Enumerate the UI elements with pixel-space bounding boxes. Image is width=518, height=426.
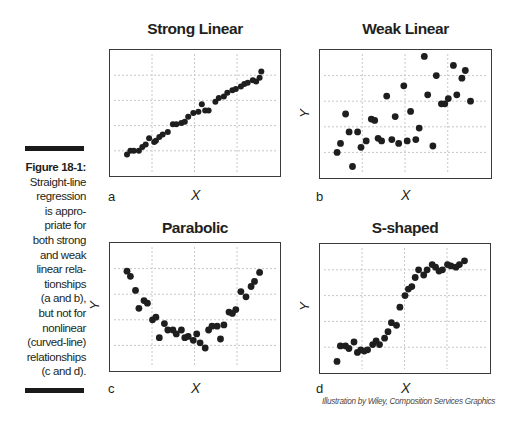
data-point: [395, 140, 402, 147]
caption-line: nonlinear: [10, 321, 86, 336]
data-point: [364, 346, 371, 353]
caption-top-rule: [25, 146, 84, 151]
data-point: [421, 53, 428, 60]
caption-line: tionships: [10, 277, 86, 292]
data-point: [233, 86, 239, 92]
data-point: [146, 135, 152, 141]
data-point: [346, 129, 353, 136]
data-point: [381, 335, 388, 342]
illustration-credit: Illustration by Wiley, Composition Servi…: [322, 397, 495, 406]
panel-d-title: S-shaped: [319, 219, 491, 237]
data-point: [232, 306, 239, 313]
panel-d-x-label: X: [401, 380, 410, 396]
data-point: [238, 288, 245, 295]
data-point: [354, 129, 361, 136]
data-point: [161, 320, 168, 327]
data-point: [334, 358, 341, 365]
data-point: [190, 110, 196, 116]
data-point: [461, 257, 468, 264]
data-point: [217, 336, 224, 343]
data-point: [404, 138, 411, 145]
panel-b-title: Weak Linear: [319, 20, 492, 38]
caption-line: and weak: [10, 248, 86, 263]
data-point: [224, 90, 230, 96]
data-point: [388, 136, 395, 143]
panel-d-plot: [319, 243, 491, 374]
data-point: [383, 93, 390, 100]
caption-line: but not for: [10, 306, 86, 321]
panel-c-x-label: X: [191, 380, 200, 396]
scatter-svg: [110, 243, 280, 371]
data-point: [153, 314, 160, 321]
data-point: [342, 111, 349, 118]
data-point: [156, 334, 163, 341]
data-point: [415, 266, 422, 273]
data-point: [256, 269, 263, 276]
caption-line: priate for: [10, 218, 86, 233]
data-point: [412, 136, 419, 143]
scatter-svg: [320, 50, 491, 178]
data-point: [195, 109, 201, 115]
data-point: [190, 337, 197, 344]
caption-line: relationships: [10, 350, 86, 365]
data-point: [371, 117, 378, 124]
panel-c-y-label: Y: [87, 301, 102, 310]
data-point: [165, 129, 171, 135]
data-point: [400, 82, 407, 89]
panel-c-title: Parabolic: [109, 219, 281, 237]
caption-line: both strong: [10, 233, 86, 248]
data-point: [412, 274, 419, 281]
caption-line: linear rela-: [10, 262, 86, 277]
data-point: [197, 339, 204, 346]
panel-a-plot: [109, 49, 281, 177]
data-point: [433, 72, 440, 79]
data-point: [402, 292, 409, 299]
data-point: [378, 138, 385, 145]
caption-bottom-rule: [25, 388, 84, 393]
panel-d-y-label: Y: [297, 302, 312, 311]
scatter-svg: [320, 244, 490, 373]
data-point: [245, 80, 251, 86]
data-point: [459, 75, 466, 82]
data-point: [214, 323, 221, 330]
data-point: [407, 108, 414, 115]
data-point: [424, 91, 431, 98]
data-point: [202, 345, 209, 352]
panel-b-x-label: X: [401, 187, 410, 203]
data-point: [243, 293, 250, 300]
caption-line: Straight-line: [10, 175, 86, 190]
data-point: [221, 322, 228, 329]
data-point: [144, 300, 151, 307]
data-point: [349, 163, 356, 170]
caption-line: is appro-: [10, 204, 86, 219]
data-point: [258, 68, 264, 74]
panel-c-letter: c: [108, 381, 115, 396]
panel-a-x-label: X: [191, 187, 200, 203]
data-point: [376, 341, 383, 348]
panel-b-letter: b: [316, 189, 323, 204]
data-point: [450, 62, 457, 69]
data-point: [257, 75, 263, 81]
data-point: [346, 345, 353, 352]
data-point: [143, 142, 149, 148]
data-point: [132, 287, 139, 294]
data-point: [430, 143, 437, 150]
data-point: [462, 67, 469, 74]
data-point: [439, 266, 446, 273]
figure-number: Figure 18-1:: [10, 160, 86, 175]
panel-a-title: Strong Linear: [109, 20, 281, 38]
caption-line: (curved-line): [10, 335, 86, 350]
panel-a-letter: a: [108, 189, 115, 204]
data-point: [453, 91, 460, 98]
data-point: [358, 144, 365, 151]
data-point: [385, 328, 392, 335]
data-point: [136, 305, 143, 312]
data-point: [397, 304, 404, 311]
data-point: [334, 149, 341, 156]
panel-b-plot: [319, 49, 492, 179]
data-point: [251, 278, 258, 285]
data-point: [424, 266, 431, 273]
caption-line: (a and b),: [10, 291, 86, 306]
data-point: [173, 121, 179, 127]
data-point: [392, 113, 399, 120]
